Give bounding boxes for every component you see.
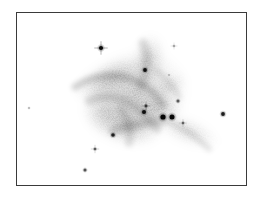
point-source-core	[168, 74, 170, 76]
point-source	[82, 167, 88, 173]
point-source-core	[111, 133, 115, 137]
point-source-core	[177, 100, 180, 103]
plate-frame	[16, 12, 247, 186]
point-source	[219, 110, 227, 118]
point-source	[27, 106, 31, 110]
point-source	[175, 98, 181, 104]
point-source-core	[160, 114, 165, 119]
point-source	[167, 73, 171, 77]
point-source-core	[94, 148, 97, 151]
point-source	[167, 112, 177, 122]
point-source-core	[182, 122, 184, 124]
point-source	[141, 66, 149, 74]
sky-image	[17, 13, 246, 185]
point-source-core	[173, 45, 175, 47]
point-source-core	[99, 46, 103, 50]
point-source-core	[221, 112, 225, 116]
point-source-core	[143, 68, 147, 72]
point-source	[158, 112, 168, 122]
sky-canvas	[17, 13, 246, 185]
point-source-core	[145, 105, 148, 108]
point-source-core	[28, 107, 30, 109]
figure-root: Diffuse nebulosity plus discrete point s…	[0, 0, 263, 200]
point-source-core	[84, 169, 87, 172]
point-source	[140, 108, 148, 116]
point-source-core	[142, 110, 146, 114]
point-source-core	[170, 115, 175, 120]
point-source	[109, 131, 116, 138]
